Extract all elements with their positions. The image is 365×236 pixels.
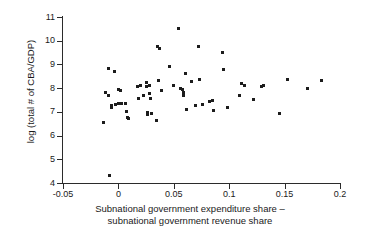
data-point xyxy=(160,89,163,92)
x-axis-title: Subnational government expenditure share… xyxy=(40,203,340,227)
data-point xyxy=(104,91,107,94)
data-point xyxy=(172,84,175,87)
data-point xyxy=(222,68,225,71)
data-point xyxy=(306,87,309,90)
x-axis-title-line-1: Subnational government expenditure share… xyxy=(40,203,340,215)
data-point xyxy=(211,99,214,102)
data-point xyxy=(226,106,229,109)
data-point xyxy=(145,81,148,84)
y-tick-mark xyxy=(57,159,62,160)
data-point xyxy=(158,47,161,50)
data-point xyxy=(125,110,128,113)
scatter-plot-figure: 4567891011 -0.0500.050.10.150.2 log (tot… xyxy=(0,0,365,236)
data-point xyxy=(320,79,323,82)
data-point xyxy=(157,79,160,82)
data-point xyxy=(107,94,110,97)
data-point xyxy=(108,174,111,177)
data-point xyxy=(221,51,224,54)
y-tick-mark xyxy=(57,112,62,113)
data-point xyxy=(148,92,151,95)
data-point xyxy=(137,97,140,100)
x-tick-label: 0.15 xyxy=(259,190,311,199)
data-point xyxy=(197,45,200,48)
x-axis-line xyxy=(62,183,341,184)
data-point xyxy=(194,104,197,107)
data-point xyxy=(139,84,142,87)
data-point xyxy=(238,94,241,97)
data-point xyxy=(185,108,188,111)
data-point xyxy=(182,94,185,97)
y-tick-mark xyxy=(57,64,62,65)
x-tick-label: 0.1 xyxy=(203,190,255,199)
data-point xyxy=(113,70,116,73)
data-point xyxy=(212,109,215,112)
data-point xyxy=(142,94,145,97)
data-point xyxy=(184,72,187,75)
data-point xyxy=(155,119,158,122)
data-point xyxy=(107,67,110,70)
data-point xyxy=(190,80,193,83)
y-tick-mark xyxy=(57,136,62,137)
y-tick-mark xyxy=(57,183,62,184)
y-tick-mark xyxy=(57,17,62,18)
y-tick-mark xyxy=(57,41,62,42)
data-point xyxy=(150,112,153,115)
data-point xyxy=(102,121,105,124)
data-point xyxy=(278,112,281,115)
plot-area xyxy=(63,17,340,183)
data-point xyxy=(127,117,130,120)
data-point xyxy=(286,78,289,81)
data-point xyxy=(243,84,246,87)
data-point xyxy=(252,98,255,101)
data-point xyxy=(262,84,265,87)
data-point xyxy=(198,78,201,81)
data-point xyxy=(119,89,122,92)
data-point xyxy=(148,84,151,87)
data-point xyxy=(124,102,127,105)
x-tick-label: 0.05 xyxy=(148,190,200,199)
y-tick-mark xyxy=(57,88,62,89)
data-point xyxy=(201,103,204,106)
y-axis-title: log (total # of CBA/GDP) xyxy=(25,2,36,182)
x-axis-title-line-2: subnational government revenue share xyxy=(40,215,340,227)
data-point xyxy=(149,97,152,100)
x-tick-label: 0 xyxy=(92,190,144,199)
data-point xyxy=(181,88,184,91)
x-tick-label: -0.05 xyxy=(37,190,89,199)
data-point xyxy=(168,65,171,68)
x-tick-label: 0.2 xyxy=(314,190,365,199)
data-point xyxy=(177,27,180,30)
